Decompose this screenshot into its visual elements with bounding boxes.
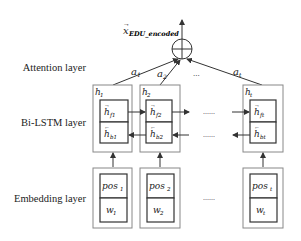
svg-text:←: ← [104, 124, 110, 130]
svg-text:h: h [150, 107, 156, 117]
svg-text:2: 2 [146, 92, 151, 98]
hidden-state-2: h 2 h → f2 h ← b2 [140, 85, 180, 152]
svg-text:←: ← [254, 124, 260, 130]
svg-text:f1: f1 [109, 112, 116, 119]
svg-text:EDU_encoded: EDU_encoded [128, 30, 179, 38]
svg-text:←: ← [150, 124, 156, 130]
svg-text:→: → [123, 20, 130, 28]
hidden-state-t: h t h → ft h ← bt [243, 85, 283, 152]
svg-text:→: → [254, 102, 260, 108]
hidden-state-1: h 1 h → f1 h ← b1 [93, 85, 132, 152]
bilstm-attention-diagram: Attention layer Bi-LSTM layer Embedding … [0, 0, 301, 241]
svg-text:2: 2 [159, 210, 164, 216]
svg-text:1: 1 [100, 92, 104, 98]
svg-text:b2: b2 [156, 134, 164, 140]
backward-ellipsis: ...... [203, 130, 215, 139]
svg-text:f2: f2 [155, 112, 162, 119]
svg-text:2: 2 [166, 186, 171, 192]
embedding-t: pos t w t [243, 168, 283, 228]
output-label: x → EDU_encoded [123, 20, 179, 38]
svg-text:t: t [239, 71, 242, 78]
embedding-layer-label: Embedding layer [14, 193, 87, 204]
svg-text:→: → [104, 102, 110, 108]
svg-text:bt: bt [260, 134, 267, 140]
weight-a2: a 2 [157, 68, 167, 80]
svg-text:h: h [254, 107, 260, 117]
weight-at: a t [233, 66, 242, 78]
attention-ellipsis: ... [193, 68, 200, 78]
svg-text:h: h [104, 107, 110, 117]
svg-text:pos: pos [252, 181, 268, 191]
embedding-2: pos 2 w 2 [140, 168, 180, 228]
svg-text:b1: b1 [110, 134, 117, 140]
svg-text:pos: pos [102, 181, 118, 191]
attention-line-1 [113, 59, 178, 85]
svg-text:→: → [150, 102, 156, 108]
svg-text:pos: pos [149, 181, 165, 191]
svg-text:1: 1 [120, 186, 124, 192]
sum-operator-icon [172, 39, 192, 59]
svg-text:h: h [104, 129, 110, 139]
svg-text:1: 1 [113, 210, 117, 216]
forward-ellipsis: ...... [203, 107, 215, 116]
bilstm-layer-label: Bi-LSTM layer [21, 117, 87, 128]
embedding-ellipsis: ...... [203, 193, 215, 202]
svg-text:1: 1 [137, 71, 141, 78]
weight-a1: a 1 [131, 66, 141, 78]
svg-text:h: h [254, 129, 260, 139]
svg-text:h: h [150, 129, 156, 139]
embedding-1: pos 1 w 1 [93, 168, 132, 228]
svg-text:ft: ft [259, 112, 265, 119]
svg-text:2: 2 [162, 73, 167, 80]
attention-layer-label: Attention layer [23, 62, 87, 73]
